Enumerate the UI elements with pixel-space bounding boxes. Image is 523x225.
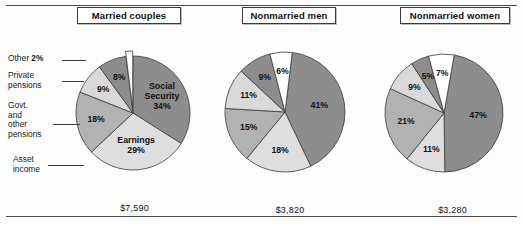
panel-value-nonmarried-men: $3,820: [240, 205, 340, 215]
pie-chart-married-couples: SocialSecurity34%Earnings29%18%9%8%: [72, 35, 192, 190]
bottom-divider-rule: [6, 216, 517, 217]
pie-slice-label: 18%: [272, 146, 290, 156]
panel-value-nonmarried-women: $3,280: [400, 205, 505, 215]
callout-govt-other-pensions: Govt. and other pensions: [8, 101, 42, 139]
pie-slice-label: 15%: [240, 122, 258, 132]
panel-title-label: Nonmarried men: [251, 10, 328, 21]
callout-line: pensions: [8, 130, 42, 140]
pie-slice-label: 8%: [113, 72, 126, 82]
top-divider-rule: [6, 5, 517, 6]
pie-slice-label: 11%: [423, 144, 440, 154]
callout-private-pensions: Private pensions: [8, 71, 42, 90]
pie-chart-nonmarried-men: 41%18%15%11%9%6%: [222, 30, 347, 190]
pie-slice-label: 7%: [436, 68, 449, 78]
pie-svg: SocialSecurity34%Earnings29%18%9%8%: [72, 35, 192, 190]
pie-slice-label: 9%: [259, 72, 272, 82]
pie-svg: 41%18%15%11%9%6%: [222, 30, 347, 190]
panel-title-nonmarried-men: Nonmarried men: [242, 7, 336, 24]
callout-other: Other 2%: [8, 54, 43, 64]
pie-slice-label: 9%: [408, 82, 421, 92]
figure-canvas: Married couples Nonmarried men Nonmarrie…: [0, 0, 523, 225]
panel-title-married-couples: Married couples: [77, 7, 181, 24]
pie-chart-nonmarried-women: 47%11%21%9%5%7%: [382, 33, 507, 190]
callout-line: income: [13, 165, 40, 175]
pie-slice-label: 47%: [469, 110, 487, 120]
leader-line-other: [62, 60, 86, 61]
callout-line: pensions: [8, 81, 42, 91]
pie-slice-label: 41%: [311, 101, 329, 111]
pie-slice-label: 5%: [422, 72, 435, 82]
pie-slice-label: 21%: [398, 116, 416, 126]
pie-slice-label: 6%: [276, 67, 289, 77]
pie-slice-label: 9%: [97, 84, 110, 94]
pie-slice-label: 18%: [87, 114, 105, 124]
panel-value-married-couples: $7,590: [82, 203, 187, 213]
pie-slice-label: 11%: [240, 91, 257, 101]
callout-other-text: Other: [8, 53, 31, 63]
panel-title-label: Married couples: [92, 10, 166, 21]
leader-line-private-pensions: [62, 81, 84, 82]
callout-other-value: 2%: [31, 53, 43, 63]
leader-line-asset-income: [48, 165, 84, 166]
leader-line-govt-pensions: [53, 124, 80, 125]
pie-svg: 47%11%21%9%5%7%: [382, 33, 507, 190]
panel-title-nonmarried-women: Nonmarried women: [400, 7, 510, 24]
callout-asset-income: Asset income: [13, 155, 40, 174]
panel-title-label: Nonmarried women: [410, 10, 500, 21]
